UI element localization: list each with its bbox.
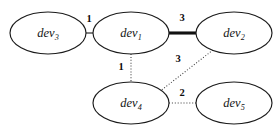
- node-label-dev2-base: dev: [223, 26, 241, 40]
- edge-weight-dev1-dev2: 3: [179, 12, 184, 23]
- graph-canvas: dev3 dev1 dev2 dev4 dev5 1 3 1 3 2: [0, 0, 276, 133]
- edge-weight-dev2-dev4: 3: [175, 53, 180, 64]
- edge-weight-dev4-dev5: 2: [179, 87, 184, 98]
- node-label-dev3-base: dev: [37, 26, 55, 40]
- node-label-dev1-subscript: 1: [138, 33, 142, 42]
- node-label-dev4-subscript: 4: [138, 103, 142, 112]
- node-label-dev1-base: dev: [120, 26, 138, 40]
- edge-weight-dev3-dev1: 1: [86, 13, 91, 24]
- node-label-dev5-base: dev: [223, 96, 241, 110]
- edge-dev2-dev4: [159, 50, 213, 92]
- node-label-dev2-subscript: 2: [241, 33, 245, 42]
- node-label-dev5-subscript: 5: [241, 103, 245, 112]
- graph-diagram: dev3 dev1 dev2 dev4 dev5 1 3 1 3 2: [0, 0, 276, 133]
- node-label-dev4-base: dev: [120, 96, 138, 110]
- edge-weight-dev1-dev4: 1: [118, 61, 123, 72]
- node-label-dev3-subscript: 3: [54, 33, 59, 42]
